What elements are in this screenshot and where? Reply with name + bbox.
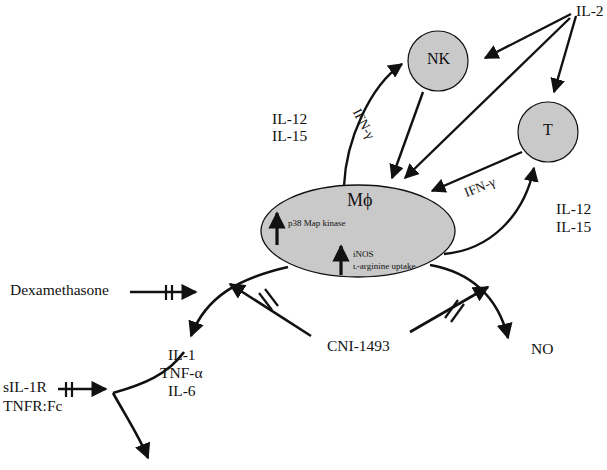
pathway-svg: [0, 0, 607, 470]
label-macrophage: Mϕ: [347, 190, 372, 210]
arrow-il2-to-nk: [485, 14, 571, 58]
arrow-cni1493-left: [230, 284, 311, 336]
label-nk-cell: NK: [427, 50, 450, 68]
label-t-cell: T: [543, 121, 553, 139]
label-il12-right: IL-12: [556, 200, 591, 217]
label-sil1r: sIL-1R: [3, 378, 47, 395]
label-il15-right: IL-15: [556, 218, 591, 235]
label-cni1493: CNI-1493: [327, 337, 390, 354]
label-il15-left: IL-15: [272, 127, 307, 144]
label-il1: IL-1: [168, 346, 196, 363]
label-il6: IL-6: [168, 382, 196, 399]
arrow-cni1493-right: [410, 287, 488, 332]
arrow-il2-to-t: [554, 16, 576, 92]
label-dexamethasone: Dexamethasone: [10, 281, 109, 298]
arrow-macrophage-to-no: [430, 265, 508, 338]
label-no: NO: [531, 340, 553, 357]
pathway-diagram: IL-2 NK T Mϕ p38 Map kinase iNOS ʟ-argin…: [0, 0, 607, 470]
label-arginine-uptake: ʟ-arginine uptake: [353, 261, 415, 271]
label-tnfr-fc: TNFR:Fc: [3, 397, 62, 414]
label-inos: iNOS: [353, 249, 374, 259]
label-tnf-alpha: TNF-α: [160, 364, 203, 381]
arrow-mediator-downstream: [113, 393, 148, 458]
label-p38-map-kinase: p38 Map kinase: [288, 218, 346, 228]
label-il2: IL-2: [576, 2, 604, 19]
label-il12-left: IL-12: [272, 110, 307, 127]
